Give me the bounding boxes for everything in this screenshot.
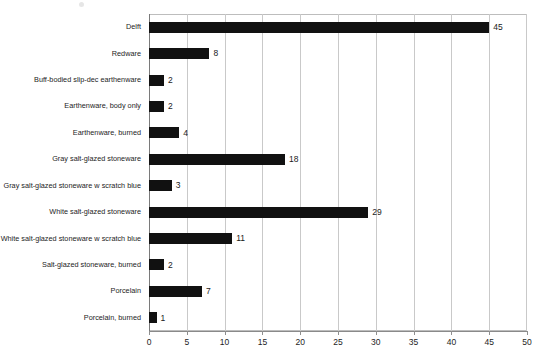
bar-row: 18: [149, 146, 527, 172]
bar: [149, 312, 157, 323]
bar: [149, 286, 202, 297]
bar-series: 4582241832911271: [149, 14, 527, 331]
bar: [149, 127, 179, 138]
x-tick: [414, 331, 415, 335]
scan-artifact: [79, 2, 84, 7]
bar-row: 7: [149, 278, 527, 304]
x-tick: [338, 331, 339, 335]
bar-row: 11: [149, 225, 527, 251]
category-label: White salt-glazed stoneware: [49, 208, 141, 215]
x-tick-label: 45: [484, 338, 493, 347]
chart-page: DelftRedwareBuff-bodied slip-dec earthen…: [0, 0, 559, 362]
x-tick-label: 5: [184, 338, 189, 347]
x-tick-label: 0: [147, 338, 152, 347]
bar-value-label: 29: [372, 208, 381, 217]
x-tick-label: 50: [522, 338, 531, 347]
x-tick-label: 35: [409, 338, 418, 347]
bar: [149, 101, 164, 112]
bar-value-label: 2: [168, 261, 173, 270]
bar-value-label: 45: [493, 23, 502, 32]
category-label: Redware: [112, 50, 141, 57]
x-tick: [187, 331, 188, 335]
bar: [149, 22, 489, 33]
category-label: Delft: [126, 24, 141, 31]
category-label: Porcelain, burned: [84, 314, 141, 321]
category-label: Earthenware, body only: [64, 103, 141, 110]
bar-value-label: 8: [213, 49, 218, 58]
plot-area: 4582241832911271: [149, 14, 527, 331]
bar-value-label: 3: [176, 181, 181, 190]
x-tick-label: 15: [258, 338, 267, 347]
bar-row: 45: [149, 14, 527, 40]
bar-row: 1: [149, 305, 527, 331]
x-tick: [225, 331, 226, 335]
bar-row: 2: [149, 252, 527, 278]
x-tick: [527, 331, 528, 335]
x-tick-label: 25: [333, 338, 342, 347]
bar-row: 2: [149, 67, 527, 93]
bar-row: 29: [149, 199, 527, 225]
x-tick: [300, 331, 301, 335]
x-tick: [262, 331, 263, 335]
category-label: Gray salt-glazed stoneware: [52, 156, 141, 163]
bar-value-label: 2: [168, 102, 173, 111]
bar: [149, 48, 209, 59]
bar-value-label: 2: [168, 76, 173, 85]
bar: [149, 233, 232, 244]
bar: [149, 75, 164, 86]
bar-value-label: 1: [161, 314, 166, 323]
bar-value-label: 4: [183, 129, 188, 138]
category-label: Salt-glazed stoneware, burned: [42, 261, 141, 268]
category-label: Earthenware, burned: [73, 129, 141, 136]
category-label: Gray salt-glazed stoneware w scratch blu…: [4, 182, 142, 189]
category-label: Buff-bodied slip-dec earthenware: [34, 76, 141, 83]
category-label: White salt-glazed stoneware w scratch bl…: [1, 235, 141, 242]
x-tick-label: 20: [295, 338, 304, 347]
bar-value-label: 18: [289, 155, 298, 164]
x-tick-label: 40: [447, 338, 456, 347]
bar: [149, 259, 164, 270]
category-axis-labels: DelftRedwareBuff-bodied slip-dec earthen…: [0, 14, 145, 331]
x-tick: [149, 331, 150, 335]
x-tick: [451, 331, 452, 335]
x-tick-label: 30: [371, 338, 380, 347]
bar: [149, 180, 172, 191]
bar-row: 3: [149, 173, 527, 199]
bar: [149, 207, 368, 218]
x-tick-label: 10: [220, 338, 229, 347]
x-tick: [376, 331, 377, 335]
bar-row: 2: [149, 93, 527, 119]
bar-value-label: 7: [206, 287, 211, 296]
bar-value-label: 11: [236, 234, 245, 243]
bar-row: 8: [149, 40, 527, 66]
bar-row: 4: [149, 120, 527, 146]
x-tick: [489, 331, 490, 335]
category-label: Porcelain: [111, 288, 141, 295]
bar: [149, 154, 285, 165]
